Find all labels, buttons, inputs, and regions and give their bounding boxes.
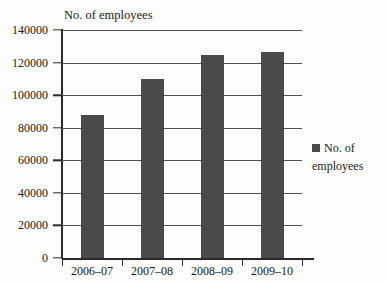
chart-legend: No. of employees — [312, 138, 386, 174]
bar — [261, 52, 284, 258]
x-axis-tick-label: 2006–07 — [71, 264, 113, 278]
x-axis-tick-label: 2009–10 — [251, 264, 293, 278]
x-axis-tick-label: 2007–08 — [131, 264, 173, 278]
y-axis-tick-label: 60000 — [18, 154, 48, 166]
y-axis-tick-group: 020000400006000080000100000120000140000 — [0, 0, 62, 284]
bar — [141, 79, 164, 258]
bar — [81, 115, 104, 258]
x-axis-tick-mark — [122, 259, 123, 266]
x-axis-tick-mark — [302, 259, 303, 266]
y-axis-tick-label: 20000 — [18, 219, 48, 231]
x-axis-tick-mark — [182, 259, 183, 266]
legend-entry: No. of employees — [312, 138, 386, 174]
bar — [201, 55, 224, 258]
chart-title: No. of employees — [64, 8, 153, 22]
y-axis-tick-label: 120000 — [12, 57, 48, 69]
legend-swatch-icon — [312, 144, 320, 152]
bars-layer — [62, 30, 302, 258]
x-axis-line — [62, 258, 314, 260]
y-axis-tick-label: 140000 — [12, 24, 48, 36]
x-axis-tick-mark — [62, 259, 63, 266]
y-axis-tick-label: 80000 — [18, 122, 48, 134]
y-axis-tick-label: 0 — [42, 252, 48, 264]
bar-chart-figure: No. of employees 02000040000600008000010… — [0, 0, 387, 284]
x-axis-tick-mark — [242, 259, 243, 266]
y-axis-tick-label: 100000 — [12, 89, 48, 101]
y-axis-tick-label: 40000 — [18, 187, 48, 199]
x-axis-tick-label: 2008–09 — [191, 264, 233, 278]
plot-area — [62, 30, 302, 258]
